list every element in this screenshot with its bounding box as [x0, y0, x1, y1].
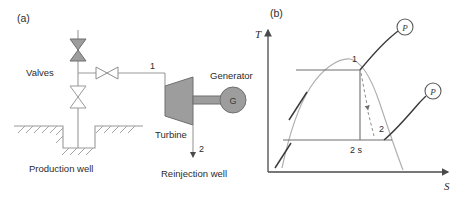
process-actual-arrow-segment — [361, 73, 368, 110]
process-actual-line — [368, 112, 374, 136]
state-1-label: 1 — [352, 54, 357, 64]
state-point-2-label: 2 — [199, 144, 204, 154]
turbine-body — [165, 77, 193, 125]
isobar-low-label: P — [429, 87, 436, 97]
production-well-label: Production well — [29, 163, 93, 174]
isobar-high-curve — [360, 36, 392, 70]
generator-label: Generator — [210, 70, 253, 81]
figure-container: (a) Valves 1 — [0, 0, 474, 198]
state-point-1-label: 1 — [150, 61, 155, 71]
panel-a-label: (a) — [17, 12, 30, 24]
inline-horizontal-valve[interactable] — [96, 67, 118, 79]
reinjection-well-label: Reinjection well — [161, 168, 227, 179]
isobar-low-connector — [420, 96, 426, 102]
x-axis-label: S — [444, 180, 450, 192]
saturation-dome-curve — [282, 59, 403, 170]
y-axis-label: T — [255, 28, 262, 40]
state-2s-label: 2 s — [350, 145, 363, 155]
valves-label: Valves — [26, 67, 54, 78]
state-2-label: 2 — [379, 124, 384, 134]
figure-svg: (a) Valves 1 — [0, 0, 474, 198]
isobar-high-label: P — [401, 23, 408, 33]
turbine-label: Turbine — [155, 129, 187, 140]
panel-b: (b) T S P P — [255, 7, 450, 192]
panel-a: (a) Valves 1 — [14, 12, 253, 179]
upper-vertical-valve[interactable] — [70, 39, 86, 61]
isobar-high-connector — [392, 31, 398, 36]
generator-symbol: G — [229, 96, 236, 106]
panel-b-label: (b) — [270, 7, 283, 19]
isobar-low-curve — [384, 102, 420, 140]
turbine-shaft — [193, 96, 221, 104]
isobar-high-stub — [289, 92, 307, 120]
lower-vertical-valve[interactable] — [70, 86, 86, 108]
